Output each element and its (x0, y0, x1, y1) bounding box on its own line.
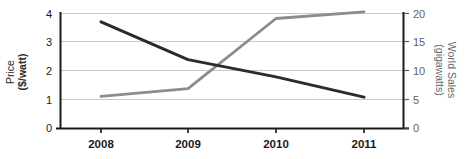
x-tick-label-2008: 2008 (88, 138, 114, 150)
line-chart: 0 1 2 3 4 0 5 10 15 20 2008 2009 2010 20… (0, 0, 465, 159)
left-tick-label-0: 0 (46, 122, 52, 134)
chart-figure: 0 1 2 3 4 0 5 10 15 20 2008 2009 2010 20… (0, 0, 465, 159)
left-axis-title-line2: ($/watt) (16, 54, 28, 91)
right-tick-label-5: 5 (413, 94, 419, 106)
right-tick-label-0: 0 (413, 122, 419, 134)
right-tick-label-10: 10 (413, 65, 425, 77)
left-tick-label-3: 3 (46, 36, 52, 48)
x-tick-label-2010: 2010 (263, 138, 289, 150)
left-tick-label-2: 2 (46, 65, 52, 77)
left-tick-label-1: 1 (46, 94, 52, 106)
right-tick-label-15: 15 (413, 36, 425, 48)
right-tick-label-20: 20 (413, 8, 425, 20)
right-axis-title-line1: World Sales (446, 42, 458, 98)
x-tick-label-2009: 2009 (175, 138, 201, 150)
x-tick-label-2011: 2011 (352, 138, 378, 150)
left-axis-title-line1: Price (4, 60, 16, 84)
right-axis-title: World Sales (gigawatts) (434, 42, 458, 98)
left-tick-label-4: 4 (46, 8, 52, 20)
chart-background (0, 0, 465, 159)
right-axis-title-line2: (gigawatts) (434, 44, 446, 95)
